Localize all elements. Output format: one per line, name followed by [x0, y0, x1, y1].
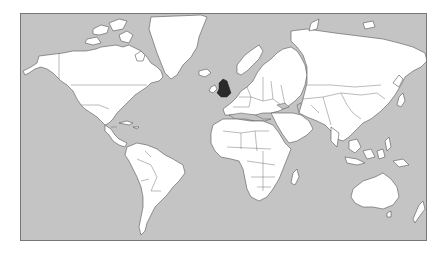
world-map-svg	[21, 14, 427, 241]
world-map	[20, 13, 427, 241]
